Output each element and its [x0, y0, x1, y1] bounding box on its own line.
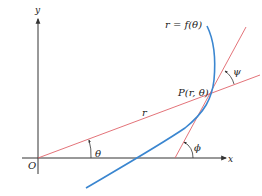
polar-curve: [86, 26, 215, 188]
theta-arc: [89, 140, 91, 158]
theta-label: θ: [95, 148, 101, 159]
phi-arc: [184, 142, 193, 158]
polar-tangent-diagram: y x O r r = f(θ) P(r, θ) θ ϕ ψ: [0, 0, 262, 196]
phi-label: ϕ: [194, 142, 201, 153]
radius-line: [38, 75, 260, 158]
psi-label: ψ: [233, 66, 241, 77]
origin-label: O: [28, 160, 36, 171]
y-axis-label: y: [34, 5, 41, 15]
radius-label: r: [142, 107, 148, 118]
point-label: P(r, θ): [177, 87, 209, 98]
x-axis-label: x: [228, 154, 233, 164]
curve-label: r = f(θ): [165, 19, 202, 30]
